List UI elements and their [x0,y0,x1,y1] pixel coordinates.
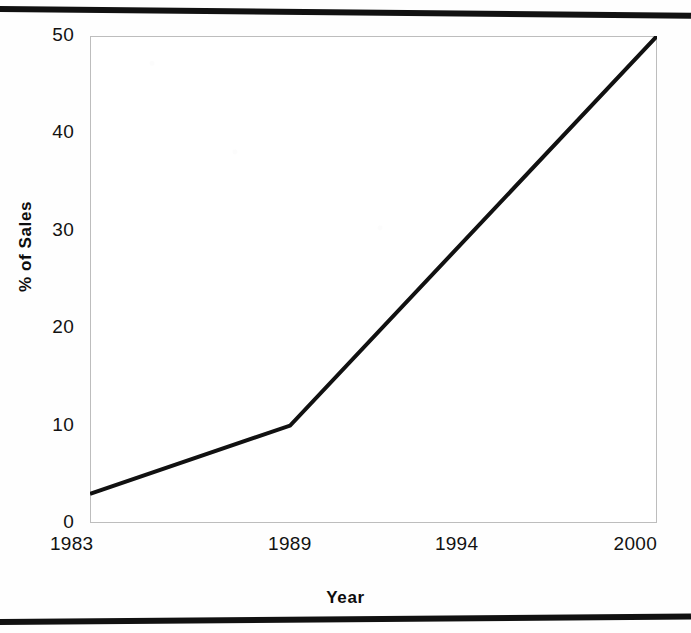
x-axis-title: Year [0,588,691,608]
y-axis-tick-label: 40 [0,122,82,141]
x-axis-tick-label: 2000 [613,534,657,553]
line-chart: 50403020100 1983198919942000 % of Sales … [0,0,691,633]
y-axis-tick-label: 0 [0,512,82,531]
y-axis-tick-label: 10 [0,415,82,434]
y-axis-tick-label: 50 [0,25,82,44]
series-line-percent-of-sales [90,36,657,494]
x-axis-tick-label: 1994 [435,534,478,553]
y-axis-tick-label: 20 [0,317,82,336]
y-axis-tick-label: 30 [0,220,82,239]
x-axis-tick-label: 1983 [50,534,93,553]
scanned-chart-page: 50403020100 1983198919942000 % of Sales … [0,0,691,633]
x-axis-tick-label: 1989 [268,534,311,553]
x-axis-tick-labels: 1983198919942000 [0,534,691,564]
plot-series-canvas [90,36,657,523]
y-axis-title: % of Sales [16,264,36,292]
